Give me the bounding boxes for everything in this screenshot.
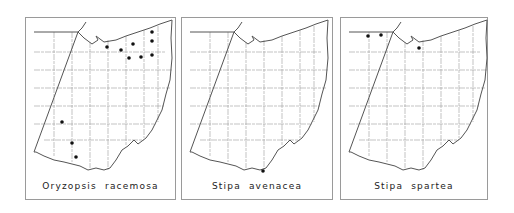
ohio-county-map	[341, 18, 489, 201]
record-dot	[74, 155, 78, 159]
record-dot	[127, 56, 131, 60]
ohio-county-map	[26, 18, 177, 201]
map-panel-stipa-avenacea: Stipa avenacea	[181, 17, 333, 200]
record-dot	[366, 34, 370, 38]
species-caption: Stipa spartea	[341, 181, 487, 191]
state-outline	[190, 20, 328, 170]
record-dot	[417, 46, 421, 50]
ohio-county-map	[182, 18, 334, 201]
record-dot	[119, 48, 123, 52]
record-dot	[139, 55, 143, 59]
record-dot	[105, 45, 109, 49]
record-dot	[379, 33, 383, 37]
record-dot	[131, 42, 135, 46]
record-dot	[150, 30, 154, 34]
record-dot	[150, 39, 154, 43]
state-outline	[349, 20, 487, 170]
map-panel-oryzopsis-racemosa: Oryzopsis racemosa	[25, 17, 176, 200]
species-caption: Stipa avenacea	[182, 181, 332, 191]
species-caption: Oryzopsis racemosa	[26, 181, 175, 191]
record-dot	[60, 120, 64, 124]
record-dot	[261, 169, 265, 173]
record-dot	[70, 141, 74, 145]
record-dot	[150, 53, 154, 57]
map-panel-stipa-spartea: Stipa spartea	[340, 17, 488, 200]
